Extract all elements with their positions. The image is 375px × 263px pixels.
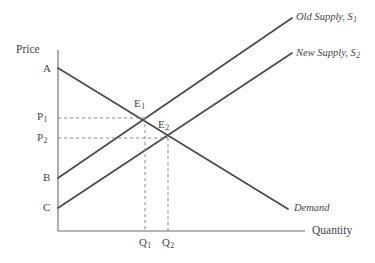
equilibrium-label-e2-subscript: 2 (165, 123, 169, 132)
supply-demand-chart: Price Quantity A P1 P2 B C Q1 Q2 E1 E2 O… (0, 0, 375, 263)
equilibrium-label-e2-base: E (158, 118, 165, 130)
point-label-q1-subscript: 1 (147, 241, 151, 250)
y-axis-title: Price (16, 44, 40, 56)
old-supply-curve (58, 18, 292, 178)
point-label-p2: P2 (37, 132, 47, 145)
equilibrium-label-e1: E1 (134, 98, 145, 111)
point-label-p1: P1 (37, 111, 47, 124)
point-label-q2-base: Q (162, 236, 170, 248)
equilibrium-label-e2: E2 (158, 119, 169, 132)
point-label-q1-base: Q (139, 236, 147, 248)
point-label-q2-subscript: 2 (170, 241, 174, 250)
point-label-c: C (43, 202, 50, 213)
curve-label-old-supply-subscript: 1 (353, 15, 357, 24)
demand-curve (58, 68, 288, 209)
point-label-p1-subscript: 1 (43, 115, 47, 124)
point-label-a: A (43, 63, 51, 74)
point-label-q1: Q1 (139, 237, 151, 250)
point-label-p2-subscript: 2 (43, 136, 47, 145)
curve-label-new-supply-subscript: 2 (356, 51, 360, 60)
point-label-b: B (43, 172, 50, 183)
point-label-q2: Q2 (162, 237, 174, 250)
curve-label-new-supply-text: New Supply, S (296, 47, 356, 58)
curve-label-old-supply: Old Supply, S1 (296, 12, 357, 24)
curve-label-old-supply-text: Old Supply, S (296, 11, 353, 22)
equilibrium-label-e1-base: E (134, 97, 141, 109)
x-axis-title: Quantity (312, 225, 352, 237)
curve-label-new-supply: New Supply, S2 (296, 48, 360, 60)
new-supply-curve (58, 53, 292, 208)
equilibrium-label-e1-subscript: 1 (141, 102, 145, 111)
curve-label-demand: Demand (294, 203, 330, 214)
